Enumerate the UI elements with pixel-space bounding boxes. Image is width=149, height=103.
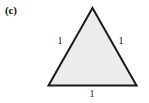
side-length-label-base: 1 (86, 88, 98, 99)
side-length-label-left: 1 (54, 35, 66, 46)
equilateral-triangle-polygon (49, 8, 137, 86)
figure-panel: (c) 1 1 1 (0, 0, 149, 103)
triangle-shape (0, 0, 149, 103)
side-length-label-right: 1 (115, 35, 127, 46)
